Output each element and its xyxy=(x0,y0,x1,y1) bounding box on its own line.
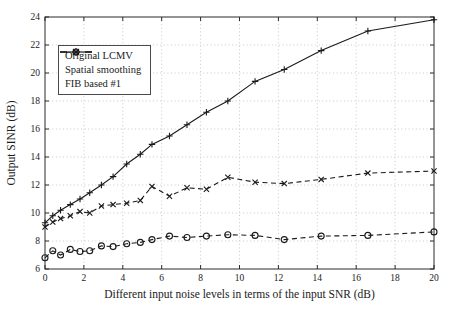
marker-plus xyxy=(365,28,371,34)
x-tick-label: 14 xyxy=(313,273,323,283)
y-tick-label: 20 xyxy=(31,68,41,78)
y-tick-label: 24 xyxy=(31,12,41,22)
marker-x xyxy=(167,194,172,199)
marker-plus xyxy=(203,109,209,115)
y-tick-label: 6 xyxy=(35,264,40,274)
series-line-0 xyxy=(45,232,434,258)
x-tick-label: 12 xyxy=(274,273,284,283)
marker-plus xyxy=(67,201,73,207)
y-tick-label: 8 xyxy=(35,236,40,246)
marker-x xyxy=(204,187,209,192)
marker-plus xyxy=(77,196,83,202)
marker-plus xyxy=(281,66,287,72)
marker-plus xyxy=(166,133,172,139)
legend-label: Spatial smoothing xyxy=(65,63,141,77)
y-axis-label: Output SINR (dB) xyxy=(5,101,17,186)
x-tick-label: 8 xyxy=(198,273,203,283)
marker-circle xyxy=(87,248,93,254)
marker-plus xyxy=(431,17,437,23)
y-tick-label: 16 xyxy=(31,124,41,134)
x-tick-label: 10 xyxy=(235,273,245,283)
x-tick-label: 6 xyxy=(159,273,164,283)
marker-plus xyxy=(87,190,93,196)
y-tick-label: 10 xyxy=(31,208,41,218)
legend: Original LCMV Spatial smoothing FIB base… xyxy=(58,45,151,95)
x-tick-label: 2 xyxy=(82,273,87,283)
legend-item-fib-based-1: FIB based #1 xyxy=(65,77,141,91)
x-tick-label: 0 xyxy=(43,273,48,283)
output-sinr-chart: 02468101214161820681012141618202224 Orig… xyxy=(0,0,456,313)
y-tick-label: 22 xyxy=(31,40,41,50)
x-tick-label: 4 xyxy=(120,273,125,283)
x-tick-label: 20 xyxy=(429,273,439,283)
marker-x xyxy=(138,198,143,203)
marker-x xyxy=(77,209,82,214)
legend-label: FIB based #1 xyxy=(65,77,121,91)
marker-plus xyxy=(318,47,324,53)
legend-item-spatial-smoothing: Spatial smoothing xyxy=(65,63,141,77)
marker-plus xyxy=(184,122,190,128)
x-tick-label: 16 xyxy=(351,273,361,283)
marker-x xyxy=(50,220,55,225)
marker-x xyxy=(149,184,154,189)
legend-marker-plus-icon xyxy=(59,46,93,58)
x-axis-label: Different input noise levels in terms of… xyxy=(45,288,434,300)
marker-x xyxy=(184,185,189,190)
x-tick-label: 18 xyxy=(390,273,400,283)
marker-circle xyxy=(67,246,73,252)
y-tick-label: 18 xyxy=(31,96,41,106)
y-tick-label: 12 xyxy=(31,180,41,190)
y-tick-label: 14 xyxy=(31,152,41,162)
